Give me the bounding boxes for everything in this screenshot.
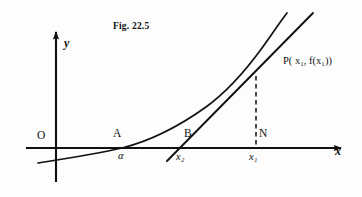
point-b-label: B	[184, 128, 192, 140]
x-axis-label: x	[335, 145, 341, 157]
x1-tick-label: x₁	[249, 152, 257, 163]
point-a-label: A	[113, 128, 121, 140]
y-axis-label: y	[64, 37, 69, 49]
x2-tick-label: x₂	[176, 152, 184, 163]
figure-drawing	[0, 0, 362, 197]
alpha-tick-label: α	[118, 151, 124, 162]
point-n-label: N	[259, 128, 267, 140]
figure-container: Fig. 22.5 y x O A α B x₂ N x₁ P( x₁, f(x…	[0, 0, 362, 197]
point-p-label: P( x₁, f(x₁))	[283, 56, 332, 67]
origin-label: O	[37, 130, 45, 142]
figure-caption: Fig. 22.5	[113, 22, 149, 32]
function-curve	[38, 13, 287, 163]
